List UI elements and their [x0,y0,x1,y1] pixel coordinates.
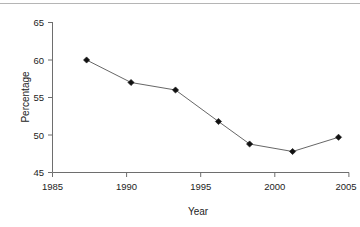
x-tick-label-2000: 2000 [264,181,285,192]
y-tick-label-65: 65 [33,17,44,28]
data-point-marker [128,79,134,85]
data-point-marker [335,134,341,140]
line-chart-plot: 65 60 55 50 45 1985 1990 1995 2000 2005 … [0,0,360,227]
x-tick-label-1985: 1985 [42,181,63,192]
y-tick-marks [48,23,53,173]
data-point-marker [247,141,253,147]
y-axis-title: Percentage [20,71,31,123]
data-point-marker [172,87,178,93]
chart-figure: 65 60 55 50 45 1985 1990 1995 2000 2005 … [0,0,360,227]
y-tick-label-50: 50 [33,130,44,141]
series-line [87,60,339,152]
series-markers [83,57,341,155]
data-point-marker [83,57,89,63]
x-tick-label-2005: 2005 [335,181,356,192]
data-point-marker [215,118,221,124]
y-tick-label-45: 45 [33,167,44,178]
x-tick-marks [53,173,349,178]
x-tick-label-1995: 1995 [190,181,211,192]
data-point-marker [289,148,295,154]
x-tick-label-1990: 1990 [116,181,137,192]
y-tick-label-60: 60 [33,55,44,66]
x-axis-title: Year [188,206,209,217]
y-tick-label-55: 55 [33,92,44,103]
